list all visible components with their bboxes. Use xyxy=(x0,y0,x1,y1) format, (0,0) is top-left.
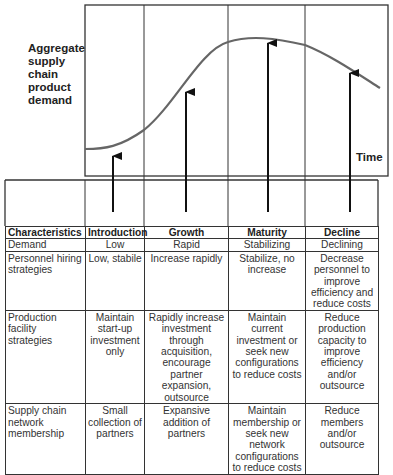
table-row: Personnel hiring strategies Low, stabile… xyxy=(6,251,379,310)
table-cell: Decrease personnel to improve efficiency… xyxy=(306,251,379,310)
row-label: Personnel hiring strategies xyxy=(6,251,86,310)
row-label: Supply chain network membership xyxy=(6,404,86,474)
table-row: Demand Low Rapid Stabilizing Declining xyxy=(6,239,379,251)
table-cell: Small collection of partners xyxy=(86,404,145,474)
table-cell: Rapid xyxy=(145,239,229,251)
header-maturity: Maturity xyxy=(229,227,306,239)
y-axis-label: Aggregate supply chain product demand xyxy=(28,42,88,107)
table-cell: Low xyxy=(86,239,145,251)
table-cell: Declining xyxy=(306,239,379,251)
table-cell: Low, stabile xyxy=(86,251,145,310)
table-cell: Maintain start-up investment only xyxy=(86,310,145,403)
table-cell: Stabilizing xyxy=(229,239,306,251)
table-cell: Increase rapidly xyxy=(145,251,229,310)
table-cell: Stabilize, no increase xyxy=(229,251,306,310)
table-cell: Maintain membership or seek new network … xyxy=(229,404,306,474)
table-cell: Expansive addition of partners xyxy=(145,404,229,474)
table-cell: Reduce members and/or outsource xyxy=(306,404,379,474)
table-cell: Maintain current investment or seek new … xyxy=(229,310,306,403)
x-axis-label: Time xyxy=(356,151,383,163)
row-label: Demand xyxy=(6,239,86,251)
chart-frame xyxy=(85,5,388,176)
table-header-row: Characteristics Introduction Growth Matu… xyxy=(6,227,379,239)
header-characteristics: Characteristics xyxy=(6,227,86,239)
table-row: Supply chain network membership Small co… xyxy=(6,404,379,474)
lifecycle-characteristics-table: Characteristics Introduction Growth Matu… xyxy=(5,226,379,475)
table-cell: Rapidly increase investment through acqu… xyxy=(145,310,229,403)
row-label: Production facility strategies xyxy=(6,310,86,403)
header-decline: Decline xyxy=(306,227,379,239)
table-row: Production facility strategies Maintain … xyxy=(6,310,379,403)
header-introduction: Introduction xyxy=(86,227,145,239)
demand-curve xyxy=(85,38,380,149)
table-cell: Reduce production capacity to improve ef… xyxy=(306,310,379,403)
header-growth: Growth xyxy=(145,227,229,239)
